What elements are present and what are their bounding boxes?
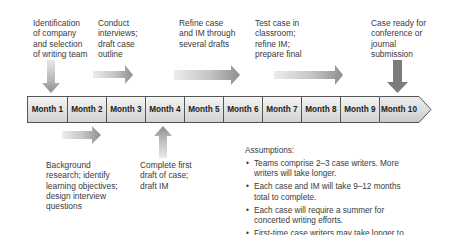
bullet-icon: • <box>246 182 249 192</box>
month-cell: Month 6 <box>223 96 262 123</box>
milestone-down-arrow-icon <box>387 60 408 93</box>
assumption-text: Each case will require a summer for conc… <box>254 206 384 225</box>
right-arrow-icon <box>62 126 101 144</box>
month-cell: Month 4 <box>145 96 184 123</box>
bullet-icon: • <box>246 229 249 235</box>
assumption-item: •Each case will require a summer for con… <box>245 206 414 226</box>
month-cell: Month 8 <box>301 96 340 123</box>
bullet-icon: • <box>246 159 249 169</box>
assumptions-block: Assumptions: •Teams comprise 2–3 case wr… <box>245 146 414 235</box>
right-arrow-icon <box>93 65 133 84</box>
right-arrow-icon <box>274 65 343 85</box>
assumption-item: •Each case and IM will take 9–12 months … <box>245 182 414 202</box>
month-cell: Month 1 <box>27 96 67 123</box>
month-cell: Month 9 <box>340 96 379 123</box>
timeline-bar: Month 1 Month 2 Month 3 Month 4 Month 5 … <box>27 96 431 123</box>
down-arrow-icon <box>42 60 60 93</box>
up-arrow-icon <box>154 126 172 158</box>
label-background-research: Background research; identify learning o… <box>46 160 118 211</box>
assumption-item: •Teams comprise 2–3 case writers. More w… <box>245 159 414 179</box>
assumption-text: First-time case writers may take longer … <box>254 229 404 235</box>
month-cell: Month 10 <box>380 96 418 123</box>
month-cell: Month 2 <box>67 96 106 123</box>
month-cell: Month 7 <box>262 96 301 123</box>
label-complete-first-draft: Complete first draft of case; draft IM <box>140 160 192 191</box>
month-cell: Month 3 <box>106 96 145 123</box>
assumption-item: •First-time case writers may take longer… <box>245 229 414 235</box>
month-cell: Month 5 <box>184 96 223 123</box>
assumptions-list: •Teams comprise 2–3 case writers. More w… <box>245 159 414 235</box>
assumption-text: Each case and IM will take 9–12 months t… <box>254 182 401 201</box>
bullet-icon: • <box>246 206 249 216</box>
assumptions-title: Assumptions: <box>245 146 414 156</box>
assumption-text: Teams comprise 2–3 case writers. More wr… <box>254 159 399 178</box>
right-arrow-icon <box>174 65 240 85</box>
